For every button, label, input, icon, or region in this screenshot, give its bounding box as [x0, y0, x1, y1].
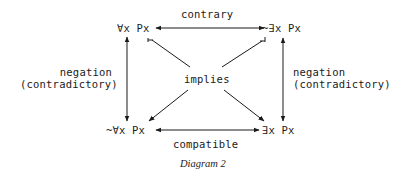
node-not-existential: ~∃x Px — [262, 22, 301, 34]
node-not-universal: ~∀x Px — [106, 124, 145, 136]
edge-label-implies: implies — [184, 73, 230, 85]
node-existential: ∃x Px — [262, 124, 295, 136]
implies-diagonal-tl-br — [152, 40, 190, 67]
diagram-caption: Diagram 2 — [180, 158, 226, 169]
edge-label-left-negation: negation — [20, 66, 112, 78]
node-universal: ∀x Px — [117, 22, 150, 34]
edge-label-right-contradictory: (contradictory) — [293, 78, 391, 90]
edge-label-left-contradictory: (contradictory) — [20, 78, 112, 90]
edge-label-contrary: contrary — [181, 8, 233, 20]
edge-label-compatible: compatible — [173, 138, 238, 150]
implies-diagonal-tr-bl — [222, 41, 262, 67]
edge-label-right-negation: negation — [293, 66, 345, 78]
